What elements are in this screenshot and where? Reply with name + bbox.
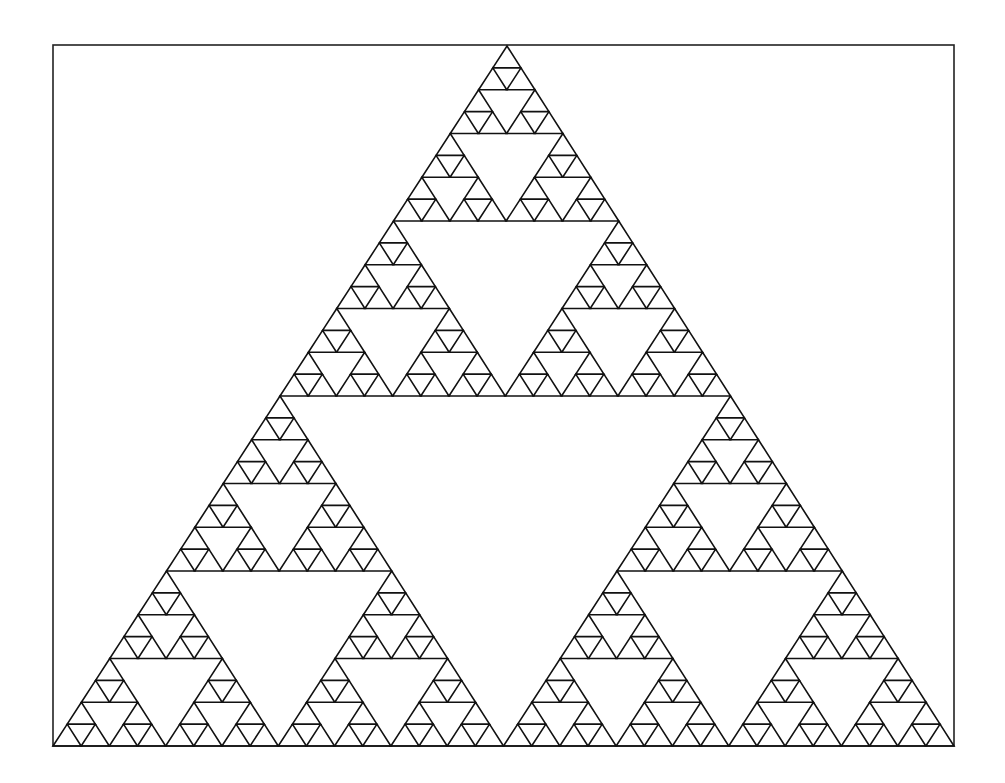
triangle	[534, 330, 562, 352]
triangle	[562, 374, 590, 396]
triangle	[870, 680, 898, 702]
triangle	[800, 527, 828, 549]
triangle	[307, 680, 335, 702]
triangle	[630, 702, 658, 724]
triangle	[856, 615, 884, 637]
triangle	[757, 680, 785, 702]
triangle	[576, 265, 604, 287]
triangle	[110, 637, 138, 659]
triangle	[645, 680, 673, 702]
triangle	[294, 440, 322, 462]
triangle	[562, 199, 590, 221]
triangle	[617, 637, 645, 659]
triangle	[337, 287, 365, 309]
triangle	[166, 593, 194, 615]
triangle	[194, 680, 222, 702]
triangle	[590, 287, 618, 309]
triangle	[378, 571, 406, 593]
triangle	[223, 505, 251, 527]
triangle	[293, 527, 321, 549]
triangle	[828, 571, 856, 593]
triangle	[688, 527, 716, 549]
triangle	[53, 724, 81, 746]
triangle	[167, 549, 195, 571]
triangle	[912, 702, 940, 724]
triangle	[646, 287, 674, 309]
triangle	[618, 374, 646, 396]
triangle	[520, 177, 548, 199]
triangle	[81, 724, 109, 746]
triangle	[533, 374, 561, 396]
triangle	[576, 352, 604, 374]
triangle	[394, 199, 422, 221]
triangle	[505, 374, 533, 396]
triangle	[364, 374, 392, 396]
triangle	[814, 593, 842, 615]
triangle	[391, 724, 419, 746]
triangle	[588, 637, 616, 659]
triangle	[461, 702, 489, 724]
triangle	[208, 659, 236, 681]
triangle	[687, 702, 715, 724]
triangle	[870, 724, 898, 746]
triangle	[349, 702, 377, 724]
triangle	[645, 505, 673, 527]
triangle	[548, 309, 576, 331]
triangle	[477, 374, 505, 396]
triangle	[266, 396, 294, 418]
triangle	[393, 287, 421, 309]
triangle	[365, 287, 393, 309]
triangle	[507, 112, 535, 134]
triangle	[786, 549, 814, 571]
triangle	[814, 637, 842, 659]
triangle	[363, 637, 391, 659]
triangle	[292, 702, 320, 724]
triangle	[758, 505, 786, 527]
triangle	[363, 593, 391, 615]
triangle	[856, 702, 884, 724]
triangle	[631, 527, 659, 549]
triangle	[351, 265, 379, 287]
triangle	[674, 462, 702, 484]
triangle	[659, 659, 687, 681]
triangle	[307, 549, 335, 571]
triangle	[646, 330, 674, 352]
triangle	[672, 724, 700, 746]
triangle	[842, 637, 870, 659]
triangle	[236, 702, 264, 724]
triangle	[560, 680, 588, 702]
triangle	[729, 724, 757, 746]
triangle	[814, 549, 842, 571]
triangle	[323, 309, 351, 331]
triangle	[898, 724, 926, 746]
triangle	[588, 724, 616, 746]
triangle	[447, 680, 475, 702]
triangle	[758, 462, 786, 484]
triangle	[478, 199, 506, 221]
triangle	[194, 724, 222, 746]
triangle	[532, 680, 560, 702]
triangle	[758, 549, 786, 571]
triangle	[898, 680, 926, 702]
triangle	[308, 374, 336, 396]
triangle	[716, 396, 744, 418]
triangle	[744, 440, 772, 462]
triangle	[563, 155, 591, 177]
triangle	[336, 505, 364, 527]
triangle	[279, 549, 307, 571]
triangle	[603, 571, 631, 593]
triangle	[884, 659, 912, 681]
triangle	[209, 484, 237, 506]
triangle	[464, 177, 492, 199]
triangle	[365, 243, 393, 265]
triangle	[138, 593, 166, 615]
triangle	[660, 484, 688, 506]
triangle	[278, 724, 306, 746]
triangle	[180, 615, 208, 637]
triangle	[110, 680, 138, 702]
triangle	[421, 287, 449, 309]
triangle	[646, 374, 674, 396]
triangle	[757, 724, 785, 746]
triangle	[660, 309, 688, 331]
triangle	[138, 637, 166, 659]
